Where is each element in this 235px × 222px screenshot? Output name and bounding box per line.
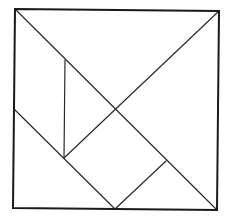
tangram-diagram [0,0,235,222]
